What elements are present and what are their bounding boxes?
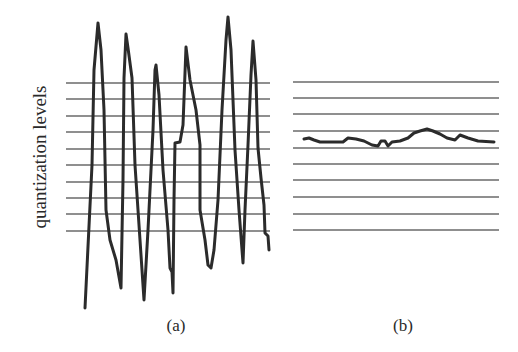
- quantization-levels-b: [293, 82, 499, 230]
- plot-canvas: [0, 0, 518, 352]
- quantization-figure: quantization levels (a) (b): [0, 0, 518, 352]
- panel-label-b: (b): [393, 316, 413, 336]
- panel-label-a: (a): [167, 316, 186, 336]
- signal-waveform-a: [85, 17, 269, 308]
- y-axis-label: quantization levels: [29, 86, 51, 229]
